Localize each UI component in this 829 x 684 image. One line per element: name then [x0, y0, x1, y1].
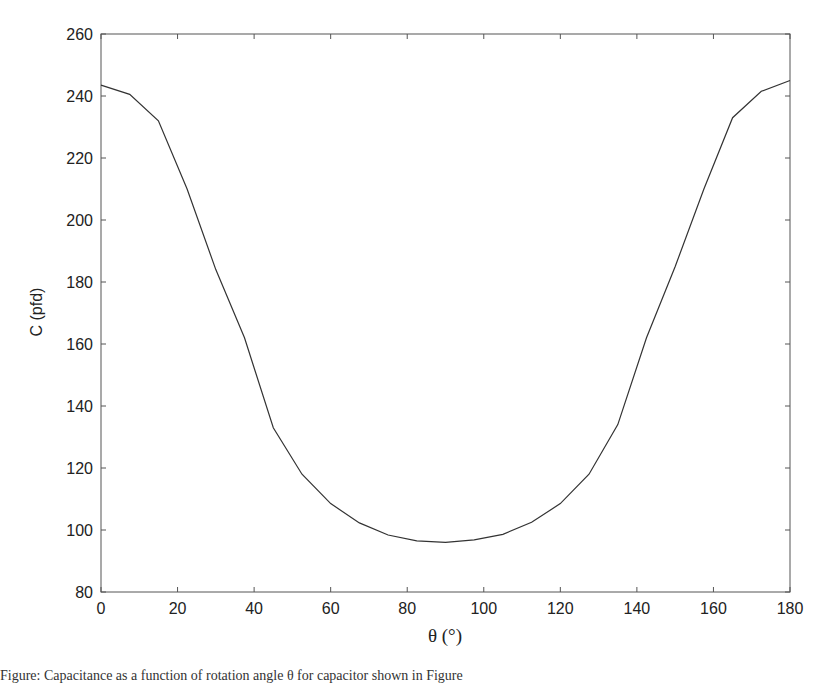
- x-axis-label: θ (°): [428, 625, 462, 647]
- y-tick-label: 100: [66, 522, 93, 539]
- y-tick-label: 200: [66, 212, 93, 229]
- x-tick-label: 20: [169, 600, 187, 617]
- x-tick-label: 40: [245, 600, 263, 617]
- x-tick-label: 100: [470, 600, 497, 617]
- x-tick-label: 0: [97, 600, 106, 617]
- y-axis-label: C (pfd): [28, 288, 45, 337]
- x-tick-label: 60: [322, 600, 340, 617]
- x-tick-label: 120: [547, 600, 574, 617]
- y-tick-label: 140: [66, 398, 93, 415]
- capacitance-curve: [101, 81, 790, 543]
- x-tick-label: 140: [624, 600, 651, 617]
- y-tick-label: 80: [75, 584, 93, 601]
- x-tick-label: 160: [700, 600, 727, 617]
- y-axis-ticks: 80100120140160180200220240260: [66, 26, 790, 601]
- x-tick-label: 80: [398, 600, 416, 617]
- plot-frame: [101, 34, 790, 592]
- figure-caption: Figure: Capacitance as a function of rot…: [0, 668, 829, 684]
- y-tick-label: 120: [66, 460, 93, 477]
- y-tick-label: 240: [66, 88, 93, 105]
- x-axis-ticks: 020406080100120140160180: [97, 34, 804, 617]
- y-tick-label: 220: [66, 150, 93, 167]
- y-tick-label: 260: [66, 26, 93, 43]
- y-tick-label: 180: [66, 274, 93, 291]
- x-tick-label: 180: [777, 600, 804, 617]
- plot-border: [101, 34, 790, 592]
- y-tick-label: 160: [66, 336, 93, 353]
